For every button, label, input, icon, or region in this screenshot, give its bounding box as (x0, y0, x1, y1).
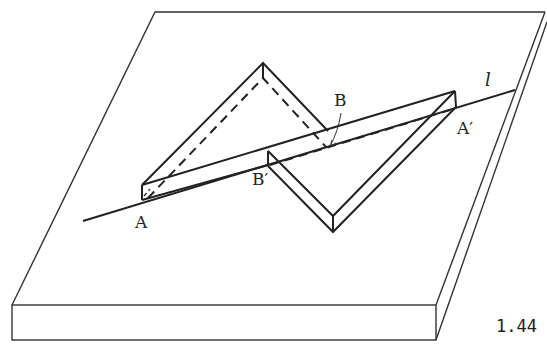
upper-bar (142, 63, 328, 200)
label-A-prime: A′ (456, 118, 473, 138)
label-B-prime: B′ (252, 169, 268, 189)
diagram-canvas: A B′ B A′ l 1.44 (0, 0, 547, 358)
plate-front-face (12, 305, 436, 340)
plate-top-left-edges (12, 12, 545, 305)
plate-top-right-edge (436, 12, 545, 305)
figure-number: 1.44 (496, 316, 537, 336)
label-B: B (334, 90, 347, 110)
arrow-to-B (330, 113, 341, 147)
plate-right-side-edge (436, 22, 547, 340)
bar-end-A-prime (455, 91, 456, 107)
straight-bar-front-edge (142, 165, 268, 200)
straight-bar (142, 91, 456, 200)
lower-bar-outer-edge (268, 107, 456, 232)
upper-bar-top-edge (142, 63, 328, 185)
plate (12, 12, 547, 340)
lower-bar (268, 91, 456, 232)
lower-bar-inner-edge (268, 91, 455, 216)
label-A: A (134, 212, 148, 232)
label-line-l: l (485, 69, 491, 90)
bar-end-A-hidden (144, 189, 150, 196)
